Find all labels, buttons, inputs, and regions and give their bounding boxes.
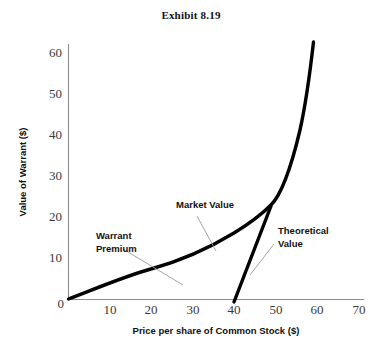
market-value-leader — [197, 216, 216, 251]
axes-group — [69, 44, 365, 300]
market-value-curve — [69, 42, 314, 299]
x-tick-label: 20 — [145, 302, 158, 317]
chart-plot-area: 60 50 40 30 20 10 0 10 20 30 40 50 60 70… — [0, 0, 382, 352]
x-axis-title: Price per share of Common Stock ($) — [133, 325, 300, 336]
annotation-warrant-premium-line2: Premium — [96, 243, 137, 254]
warrant-premium-leader — [123, 249, 183, 285]
x-tick-label: 50 — [270, 302, 283, 317]
x-tick-label: 40 — [228, 302, 241, 317]
y-tick-labels: 60 50 40 30 20 10 0 — [49, 45, 64, 311]
y-axis-title: Value of Warrant ($) — [17, 128, 28, 217]
x-tick-label: 70 — [353, 302, 366, 317]
x-tick-labels: 10 20 30 40 50 60 70 — [104, 302, 366, 317]
y-tick-label: 30 — [49, 168, 62, 183]
x-tick-label: 60 — [311, 302, 324, 317]
y-tick-label: 0 — [58, 296, 65, 311]
x-tick-label: 10 — [104, 302, 117, 317]
chart-page: Exhibit 8.19 60 50 40 30 20 10 0 10 20 3… — [0, 0, 382, 352]
annotation-warrant-premium-line1: Warrant — [96, 230, 132, 241]
y-tick-label: 50 — [49, 86, 62, 101]
x-tick-label: 30 — [187, 302, 200, 317]
y-tick-label: 10 — [49, 250, 62, 265]
annotation-market-value: Market Value — [176, 199, 234, 210]
y-tick-label: 60 — [49, 45, 62, 60]
y-tick-label: 20 — [49, 209, 62, 224]
annotation-theoretical-value-line1: Theoretical — [278, 225, 329, 236]
annotation-theoretical-value-line2: Value — [278, 238, 303, 249]
y-tick-label: 40 — [49, 127, 62, 142]
